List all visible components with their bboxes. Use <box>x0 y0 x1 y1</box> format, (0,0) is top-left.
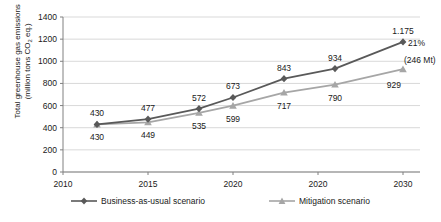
y-axis-tick-label: 1200 <box>38 34 57 44</box>
data-label-business-as-usual: 477 <box>141 103 155 113</box>
triangle-marker-icon <box>269 196 295 206</box>
plot-area: 0200400600800100012001400201020152020202… <box>0 0 441 222</box>
emissions-line-chart: Total greenhouse gas emissions (million … <box>0 0 441 222</box>
legend-label-business-as-usual: Business-as-usual scenario <box>101 196 205 206</box>
legend-item-business-as-usual[interactable]: Business-as-usual scenario <box>71 196 205 206</box>
y-axis-tick-label: 1400 <box>38 12 57 22</box>
data-point-marker <box>332 65 339 72</box>
data-label-mitigation: 790 <box>328 93 342 103</box>
data-label-mitigation: 717 <box>277 101 291 111</box>
data-label-business-as-usual: 673 <box>226 81 240 91</box>
y-axis-tick-label: 0 <box>52 167 57 177</box>
data-label-mitigation: 929 <box>387 80 401 90</box>
legend-item-mitigation[interactable]: Mitigation scenario <box>269 196 370 206</box>
data-point-marker <box>281 75 288 82</box>
annotation-percent-reduction: 21% <box>408 38 425 48</box>
y-axis-tick-label: 400 <box>43 123 57 133</box>
data-point-marker <box>230 94 237 101</box>
y-axis-tick-label: 200 <box>43 145 57 155</box>
y-axis-tick-label: 1000 <box>38 56 57 66</box>
series-line-mitigation <box>97 69 403 124</box>
y-axis-tick-label: 600 <box>43 101 57 111</box>
x-axis-tick-label: 2010 <box>54 179 73 189</box>
x-axis-tick-label: 2030 <box>394 179 413 189</box>
y-axis-tick-label: 800 <box>43 78 57 88</box>
data-label-mitigation: 430 <box>90 132 104 142</box>
data-label-mitigation: 599 <box>226 114 240 124</box>
annotation-absolute-reduction: (246 Mt) <box>404 55 436 65</box>
diamond-marker-icon <box>71 196 97 206</box>
chart-legend: Business-as-usual scenario Mitigation sc… <box>0 196 441 206</box>
data-label-business-as-usual: 430 <box>90 108 104 118</box>
x-axis-tick-label: 2020 <box>224 179 243 189</box>
data-label-business-as-usual: 934 <box>328 53 342 63</box>
x-axis-tick-label: 2015 <box>139 179 158 189</box>
data-label-mitigation: 449 <box>141 130 155 140</box>
x-axis-tick-label: 2020 <box>309 179 328 189</box>
data-label-business-as-usual: 1.175 <box>392 26 414 36</box>
data-label-business-as-usual: 572 <box>192 93 206 103</box>
data-label-mitigation: 535 <box>192 121 206 131</box>
data-label-business-as-usual: 843 <box>277 63 291 73</box>
data-point-marker <box>196 105 203 112</box>
legend-label-mitigation: Mitigation scenario <box>299 196 370 206</box>
